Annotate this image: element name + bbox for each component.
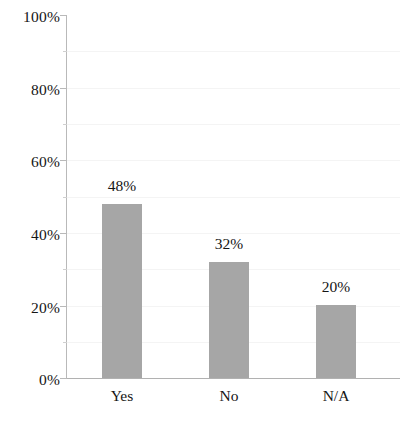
bar-chart: 100% 80% 60% 40% 20% 0% 48% 32% 20% Yes … — [0, 0, 414, 421]
y-axis-label-40: 40% — [4, 227, 60, 243]
bar-value-no: 32% — [184, 236, 274, 252]
category-label-yes: Yes — [77, 388, 167, 404]
bar-value-yes: 48% — [77, 178, 167, 194]
plot-area — [66, 15, 400, 378]
bar-na — [316, 305, 356, 378]
y-axis-label-0: 0% — [4, 372, 60, 388]
y-tick-0 — [60, 378, 67, 379]
bar-yes — [102, 204, 142, 378]
y-axis-label-80: 80% — [4, 82, 60, 98]
y-axis-label-20: 20% — [4, 300, 60, 316]
y-axis-label-60: 60% — [4, 154, 60, 170]
y-axis-label-100: 100% — [4, 9, 60, 25]
x-axis-line — [66, 378, 400, 379]
category-label-no: No — [184, 388, 274, 404]
bar-no — [209, 262, 249, 378]
bar-value-na: 20% — [291, 279, 381, 295]
category-label-na: N/A — [291, 388, 381, 404]
